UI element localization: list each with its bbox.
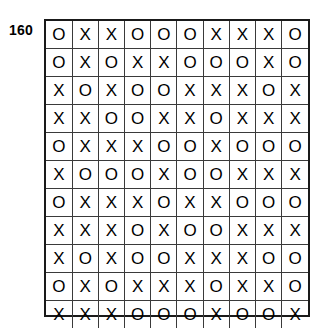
xo-cell-o[interactable]: O bbox=[229, 189, 255, 217]
xo-cell-x[interactable]: X bbox=[256, 217, 282, 245]
xo-cell-x[interactable]: X bbox=[229, 161, 255, 189]
xo-cell-x[interactable]: X bbox=[229, 21, 255, 49]
xo-cell-x[interactable]: X bbox=[203, 133, 229, 161]
xo-cell-x[interactable]: X bbox=[98, 133, 124, 161]
xo-cell-o[interactable]: O bbox=[229, 133, 255, 161]
xo-cell-o[interactable]: O bbox=[72, 161, 98, 189]
xo-cell-x[interactable]: X bbox=[125, 49, 151, 77]
xo-cell-o[interactable]: O bbox=[46, 21, 72, 49]
xo-cell-o[interactable]: O bbox=[98, 161, 124, 189]
xo-cell-x[interactable]: X bbox=[229, 245, 255, 273]
xo-cell-x[interactable]: X bbox=[72, 273, 98, 301]
xo-cell-x[interactable]: X bbox=[282, 301, 308, 329]
xo-cell-x[interactable]: X bbox=[151, 49, 177, 77]
xo-cell-x[interactable]: X bbox=[98, 245, 124, 273]
xo-cell-x[interactable]: X bbox=[151, 161, 177, 189]
xo-cell-x[interactable]: X bbox=[256, 49, 282, 77]
xo-cell-o[interactable]: O bbox=[229, 49, 255, 77]
xo-cell-o[interactable]: O bbox=[46, 49, 72, 77]
xo-cell-o[interactable]: O bbox=[256, 133, 282, 161]
xo-cell-o[interactable]: O bbox=[125, 217, 151, 245]
xo-cell-o[interactable]: O bbox=[151, 21, 177, 49]
xo-cell-o[interactable]: O bbox=[125, 301, 151, 329]
xo-cell-x[interactable]: X bbox=[203, 245, 229, 273]
xo-cell-x[interactable]: X bbox=[256, 105, 282, 133]
xo-cell-x[interactable]: X bbox=[177, 105, 203, 133]
xo-cell-o[interactable]: O bbox=[125, 245, 151, 273]
xo-cell-o[interactable]: O bbox=[256, 189, 282, 217]
xo-cell-x[interactable]: X bbox=[229, 217, 255, 245]
xo-cell-x[interactable]: X bbox=[282, 77, 308, 105]
xo-cell-x[interactable]: X bbox=[98, 21, 124, 49]
xo-cell-o[interactable]: O bbox=[256, 301, 282, 329]
xo-cell-x[interactable]: X bbox=[177, 77, 203, 105]
xo-cell-x[interactable]: X bbox=[177, 273, 203, 301]
xo-cell-o[interactable]: O bbox=[177, 217, 203, 245]
xo-cell-o[interactable]: O bbox=[203, 49, 229, 77]
xo-cell-x[interactable]: X bbox=[151, 217, 177, 245]
xo-cell-x[interactable]: X bbox=[72, 133, 98, 161]
xo-cell-x[interactable]: X bbox=[151, 105, 177, 133]
xo-cell-x[interactable]: X bbox=[256, 161, 282, 189]
xo-cell-x[interactable]: X bbox=[46, 161, 72, 189]
xo-cell-o[interactable]: O bbox=[72, 77, 98, 105]
xo-cell-x[interactable]: X bbox=[46, 105, 72, 133]
xo-cell-x[interactable]: X bbox=[72, 105, 98, 133]
xo-cell-x[interactable]: X bbox=[256, 273, 282, 301]
xo-cell-o[interactable]: O bbox=[98, 49, 124, 77]
xo-cell-o[interactable]: O bbox=[46, 189, 72, 217]
xo-cell-o[interactable]: O bbox=[125, 105, 151, 133]
xo-cell-x[interactable]: X bbox=[72, 21, 98, 49]
xo-cell-o[interactable]: O bbox=[177, 133, 203, 161]
xo-cell-x[interactable]: X bbox=[282, 161, 308, 189]
xo-cell-x[interactable]: X bbox=[203, 301, 229, 329]
xo-cell-o[interactable]: O bbox=[282, 21, 308, 49]
xo-cell-o[interactable]: O bbox=[98, 105, 124, 133]
xo-cell-x[interactable]: X bbox=[177, 189, 203, 217]
xo-cell-o[interactable]: O bbox=[177, 49, 203, 77]
xo-cell-o[interactable]: O bbox=[151, 77, 177, 105]
xo-cell-o[interactable]: O bbox=[98, 273, 124, 301]
xo-cell-o[interactable]: O bbox=[177, 21, 203, 49]
xo-cell-x[interactable]: X bbox=[203, 189, 229, 217]
xo-cell-x[interactable]: X bbox=[125, 189, 151, 217]
xo-cell-x[interactable]: X bbox=[125, 133, 151, 161]
xo-cell-o[interactable]: O bbox=[282, 189, 308, 217]
xo-cell-o[interactable]: O bbox=[203, 217, 229, 245]
xo-cell-o[interactable]: O bbox=[151, 133, 177, 161]
xo-cell-x[interactable]: X bbox=[98, 217, 124, 245]
xo-cell-x[interactable]: X bbox=[72, 49, 98, 77]
xo-cell-x[interactable]: X bbox=[98, 77, 124, 105]
xo-cell-o[interactable]: O bbox=[72, 245, 98, 273]
xo-cell-x[interactable]: X bbox=[46, 217, 72, 245]
xo-cell-x[interactable]: X bbox=[72, 189, 98, 217]
xo-cell-x[interactable]: X bbox=[98, 189, 124, 217]
xo-cell-o[interactable]: O bbox=[177, 301, 203, 329]
xo-cell-o[interactable]: O bbox=[256, 245, 282, 273]
xo-cell-x[interactable]: X bbox=[282, 217, 308, 245]
xo-cell-o[interactable]: O bbox=[203, 161, 229, 189]
xo-cell-o[interactable]: O bbox=[203, 105, 229, 133]
xo-cell-o[interactable]: O bbox=[125, 161, 151, 189]
xo-cell-o[interactable]: O bbox=[282, 245, 308, 273]
xo-cell-o[interactable]: O bbox=[151, 189, 177, 217]
xo-cell-x[interactable]: X bbox=[46, 77, 72, 105]
xo-cell-x[interactable]: X bbox=[203, 77, 229, 105]
xo-cell-o[interactable]: O bbox=[151, 245, 177, 273]
xo-cell-x[interactable]: X bbox=[72, 217, 98, 245]
xo-cell-x[interactable]: X bbox=[72, 301, 98, 329]
xo-cell-o[interactable]: O bbox=[46, 273, 72, 301]
xo-cell-o[interactable]: O bbox=[125, 21, 151, 49]
xo-cell-x[interactable]: X bbox=[256, 21, 282, 49]
xo-cell-x[interactable]: X bbox=[229, 273, 255, 301]
xo-cell-x[interactable]: X bbox=[125, 273, 151, 301]
xo-cell-o[interactable]: O bbox=[46, 133, 72, 161]
xo-cell-o[interactable]: O bbox=[229, 301, 255, 329]
xo-cell-x[interactable]: X bbox=[98, 301, 124, 329]
xo-cell-x[interactable]: X bbox=[177, 245, 203, 273]
xo-cell-x[interactable]: X bbox=[151, 273, 177, 301]
xo-cell-o[interactable]: O bbox=[282, 133, 308, 161]
xo-cell-x[interactable]: X bbox=[46, 301, 72, 329]
xo-cell-o[interactable]: O bbox=[282, 49, 308, 77]
xo-cell-x[interactable]: X bbox=[203, 21, 229, 49]
